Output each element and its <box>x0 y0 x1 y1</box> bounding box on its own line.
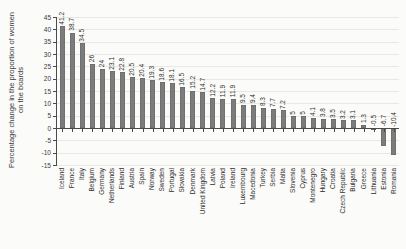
bar <box>100 69 105 128</box>
bar <box>70 33 75 128</box>
x-tick-mark <box>132 129 133 132</box>
gridline <box>57 116 399 117</box>
x-tick-mark <box>314 129 315 132</box>
bar <box>130 77 135 128</box>
bar-value-label: 20.4 <box>139 64 146 77</box>
y-tick-label: 45 <box>31 14 51 21</box>
y-axis-line <box>56 17 57 166</box>
bar-value-label: 12.2 <box>210 84 217 97</box>
gridline <box>57 79 399 80</box>
bar <box>180 87 185 128</box>
bar-value-label: 3.5 <box>330 109 337 118</box>
x-tick-label: Austria <box>129 168 136 188</box>
bar-value-label: -6.7 <box>381 115 388 126</box>
x-tick-mark <box>303 129 304 132</box>
bar <box>170 83 175 128</box>
bar <box>220 99 225 128</box>
x-tick-label: Portugal <box>169 168 176 192</box>
x-tick-label: Spain <box>139 168 146 185</box>
x-tick-label: Italy <box>79 168 86 180</box>
x-tick-mark <box>82 129 83 132</box>
x-tick-mark <box>203 129 204 132</box>
bar-value-label: 24 <box>99 60 106 67</box>
bar-value-label: 9.5 <box>240 94 247 103</box>
bar-value-label: 19.3 <box>149 66 156 79</box>
x-tick-mark <box>163 129 164 132</box>
bar <box>291 116 296 128</box>
bar <box>190 91 195 128</box>
x-tick-label: Montenegro <box>310 168 317 203</box>
bar-value-label: 15.2 <box>190 76 197 89</box>
x-tick-label: Ireland <box>230 168 237 188</box>
bar-value-label: 18.6 <box>159 68 166 81</box>
x-tick-mark <box>72 129 73 132</box>
x-tick-label: United Kingdom <box>200 168 207 214</box>
x-tick-label: Croatia <box>330 168 337 189</box>
x-tick-mark <box>62 129 63 132</box>
bar-value-label: 38.7 <box>69 18 76 31</box>
bar <box>331 119 336 128</box>
y-tick-label: 20 <box>31 75 51 82</box>
bar <box>301 116 306 128</box>
bar <box>311 118 316 128</box>
x-tick-label: Belgium <box>89 168 96 191</box>
bar <box>351 120 356 128</box>
bar <box>281 110 286 128</box>
y-tick-label: 25 <box>31 63 51 70</box>
y-tick-label: 10 <box>31 100 51 107</box>
plot-area: 454035302520151050-5-10-1541.2Iceland38.… <box>0 0 406 249</box>
bar <box>321 119 326 128</box>
x-tick-label: Luxembourg <box>240 168 247 204</box>
y-tick-label: -15 <box>31 162 51 169</box>
gridline <box>57 17 399 18</box>
bar-value-label: 7.7 <box>270 98 277 107</box>
bar-value-label: 5 <box>290 111 297 115</box>
x-tick-label: Malta <box>280 168 287 184</box>
x-tick-mark <box>213 129 214 132</box>
bar-value-label: 23.1 <box>109 57 116 70</box>
bar-value-label: -0.5 <box>371 115 378 126</box>
x-tick-mark <box>364 129 365 132</box>
x-tick-mark <box>273 129 274 132</box>
bar <box>261 108 266 128</box>
bar-value-label: 7.2 <box>280 100 287 109</box>
x-tick-label: Latvia <box>210 168 217 185</box>
bar-value-label: 1.3 <box>361 114 368 123</box>
y-tick-label: 5 <box>31 112 51 119</box>
bar-value-label: 34.5 <box>79 29 86 42</box>
bar-value-label: 26 <box>89 55 96 62</box>
bar-value-label: 11.9 <box>230 85 237 97</box>
x-tick-mark <box>344 129 345 132</box>
gridline <box>57 103 399 104</box>
x-tick-mark <box>223 129 224 132</box>
gridline <box>57 91 399 92</box>
gridline <box>57 54 399 55</box>
x-tick-label: Cyprus <box>300 168 307 189</box>
gridline <box>57 29 399 30</box>
x-tick-mark <box>394 129 395 132</box>
bar-value-label: 5 <box>300 111 307 115</box>
bar <box>150 80 155 128</box>
x-tick-mark <box>173 129 174 132</box>
gridline <box>57 153 399 154</box>
bar <box>271 109 276 128</box>
x-tick-label: Serbia <box>270 168 277 187</box>
bar-value-label: 16.5 <box>179 73 186 86</box>
x-tick-mark <box>384 129 385 132</box>
bar-value-label: 22.8 <box>119 58 126 71</box>
y-tick-label: -10 <box>31 149 51 156</box>
x-tick-label: Sweden <box>159 168 166 192</box>
x-tick-mark <box>243 129 244 132</box>
x-tick-label: Turkey <box>260 168 267 188</box>
x-axis-line <box>56 128 399 129</box>
y-tick-label: 40 <box>31 26 51 33</box>
x-tick-mark <box>374 129 375 132</box>
x-tick-mark <box>153 129 154 132</box>
bar <box>60 26 65 128</box>
gridline <box>57 165 399 166</box>
x-tick-label: France <box>69 168 76 188</box>
bar <box>160 82 165 128</box>
bar <box>341 120 346 128</box>
bar-value-label: 8.3 <box>260 97 267 106</box>
gridline <box>57 140 399 141</box>
